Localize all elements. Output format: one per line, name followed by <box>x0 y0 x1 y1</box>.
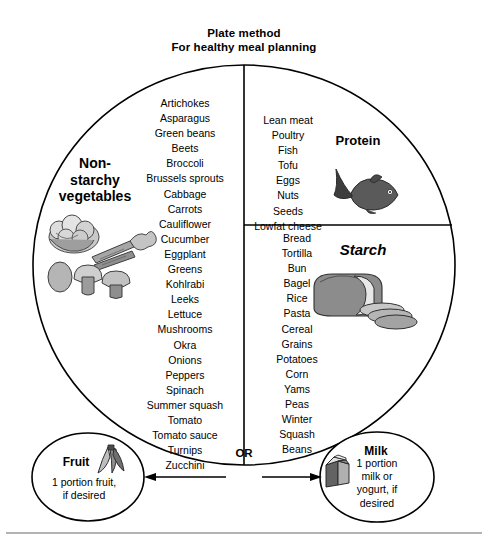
fruit-desc-line-1: 1 portion fruit, <box>40 476 128 489</box>
list-item: Rice <box>248 291 346 306</box>
page-title: Plate method For healthy meal planning <box>0 26 488 54</box>
list-item: Squash <box>248 427 346 442</box>
list-item: Grains <box>248 337 346 352</box>
list-item: Eggplant <box>110 247 260 262</box>
milk-desc-line-3: yogurt, if <box>344 483 410 496</box>
list-item: Eggs <box>232 173 344 188</box>
list-item: Summer squash <box>110 398 260 413</box>
list-item: Leeks <box>110 292 260 307</box>
list-item: Greens <box>110 262 260 277</box>
list-item: Cucumber <box>110 232 260 247</box>
list-item: Yams <box>248 382 346 397</box>
list-item: Bagel <box>248 276 346 291</box>
plate-method-diagram: Plate method For healthy meal planning N… <box>0 0 488 543</box>
milk-title: Milk <box>350 444 402 458</box>
cauliflower-icon <box>49 215 99 253</box>
list-item: Spinach <box>110 383 260 398</box>
list-item: Peppers <box>110 368 260 383</box>
milk-desc-line-2: milk or <box>344 470 410 483</box>
title-line-2: For healthy meal planning <box>0 40 488 54</box>
list-item: Corn <box>248 367 346 382</box>
list-item: Zucchini <box>110 458 260 473</box>
list-item: Nuts <box>232 188 344 203</box>
list-item: Potatoes <box>248 352 346 367</box>
protein-food-list: Lean meat Poultry Fish Tofu Eggs Nuts Se… <box>232 113 344 234</box>
list-item: Cereal <box>248 322 346 337</box>
list-item: Mushrooms <box>110 322 260 337</box>
list-item: Fish <box>232 143 344 158</box>
list-item: Poultry <box>232 128 344 143</box>
list-item: Lettuce <box>110 307 260 322</box>
list-item: Bun <box>248 261 346 276</box>
fruit-description: 1 portion fruit, if desired <box>40 476 128 502</box>
list-item: Bread <box>248 231 346 246</box>
milk-description: 1 portion milk or yogurt, if desired <box>344 457 410 510</box>
list-item: Tortilla <box>248 246 346 261</box>
fruit-title: Fruit <box>50 455 102 469</box>
list-item: Kohlrabi <box>110 277 260 292</box>
list-item: Tomato <box>110 413 260 428</box>
list-item: Tofu <box>232 158 344 173</box>
list-item: Pasta <box>248 306 346 321</box>
list-item: Onions <box>110 353 260 368</box>
milk-desc-line-1: 1 portion <box>344 457 410 470</box>
fruit-desc-line-2: if desired <box>40 489 128 502</box>
list-item: Seeds <box>232 204 344 219</box>
starch-food-list: Bread Tortilla Bun Bagel Rice Pasta Cere… <box>248 231 346 457</box>
list-item: Winter <box>248 412 346 427</box>
list-item: Okra <box>110 338 260 353</box>
list-item: Artichokes <box>110 96 260 111</box>
list-item: Peas <box>248 397 346 412</box>
milk-desc-line-4: desired <box>344 497 410 510</box>
fruit-milk-connector-arrow <box>144 473 322 481</box>
title-line-1: Plate method <box>0 26 488 40</box>
list-item: Lean meat <box>232 113 344 128</box>
list-item: Tomato sauce <box>110 428 260 443</box>
